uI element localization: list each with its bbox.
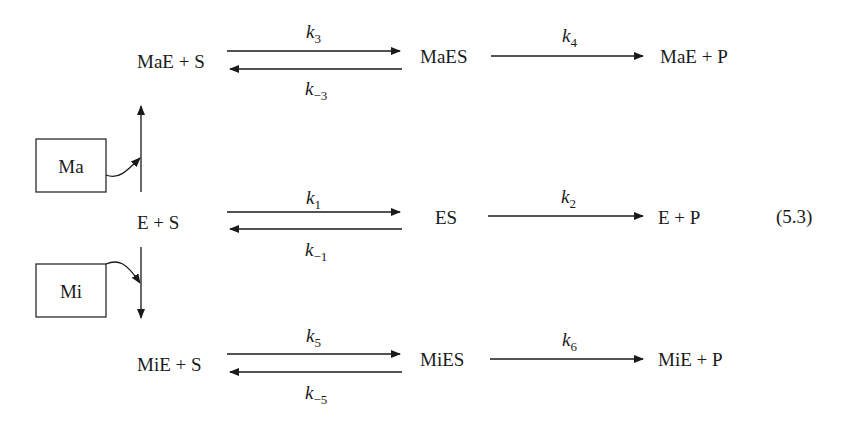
bottom-complex: MiES <box>420 350 464 369</box>
rate-constant-k5: k5 <box>306 326 321 349</box>
rate-constant-k-5: k−5 <box>305 383 327 406</box>
middle-complex: ES <box>435 208 457 227</box>
bottom-products: MiE + P <box>658 350 723 369</box>
equation-number: (5.3) <box>776 207 812 226</box>
rate-constant-k2: k2 <box>561 187 576 210</box>
top-reactants: MaE + S <box>137 52 205 71</box>
reaction-scheme-diagram: Ma Mi MaE + S MaES MaE + P k3 k−3 k4 E +… <box>0 0 852 421</box>
rate-constant-k-1: k−1 <box>305 240 327 263</box>
rate-constant-k3: k3 <box>306 22 321 45</box>
rate-constant-k1: k1 <box>306 188 321 211</box>
middle-products: E + P <box>658 208 700 227</box>
activator-curve-arrow <box>106 158 140 176</box>
inhibitor-curve-arrow <box>106 262 140 283</box>
rate-constant-k6: k6 <box>562 330 577 353</box>
middle-reactants: E + S <box>137 213 179 232</box>
bottom-reactants: MiE + S <box>137 355 202 374</box>
activator-label: Ma <box>36 157 106 176</box>
top-complex: MaES <box>420 47 468 66</box>
rate-constant-k4: k4 <box>562 26 577 49</box>
rate-constant-k-3: k−3 <box>305 79 327 102</box>
inhibitor-label: Mi <box>36 282 106 301</box>
top-products: MaE + P <box>660 47 728 66</box>
